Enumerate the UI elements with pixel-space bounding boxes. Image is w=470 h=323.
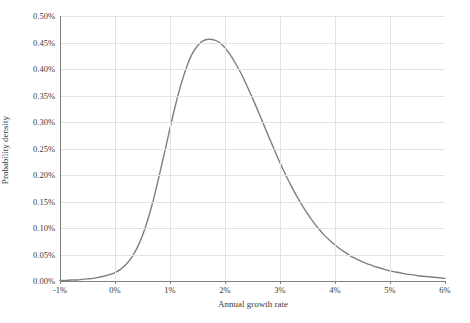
x-axis-tick-mark [115,281,116,284]
x-axis-tick-label: -1% [53,285,67,295]
x-axis-line [60,281,446,282]
y-axis-tick-label: 0.40% [33,64,55,74]
density-curve-path [60,39,445,280]
gridline-horizontal [60,255,445,256]
gridline-vertical [170,16,171,281]
x-axis-title: Annual growth rate [60,299,446,309]
gridline-horizontal [60,202,445,203]
x-axis-tick-mark [445,281,446,284]
gridline-vertical [115,16,116,281]
x-axis-tick-label: 4% [329,285,340,295]
gridline-horizontal [60,122,445,123]
gridline-vertical [225,16,226,281]
y-axis-tick-label: 0.05% [33,250,55,260]
y-axis-tick-label: 0.30% [33,117,55,127]
y-axis-tick-label: 0.50% [33,11,55,21]
x-axis-tick-mark [225,281,226,284]
y-axis-tick-label: 0.20% [33,170,55,180]
gridline-horizontal [60,43,445,44]
y-axis-title: Probability density [0,95,10,205]
gridline-horizontal [60,175,445,176]
x-axis-tick-mark [60,281,61,284]
y-axis-tick-label: 0.45% [33,38,55,48]
y-axis-tick-label: 0.25% [33,144,55,154]
gridline-horizontal [60,96,445,97]
gridline-horizontal [60,228,445,229]
gridline-horizontal [60,149,445,150]
x-axis-tick-label: 6% [439,285,450,295]
y-axis-tick-label: 0.10% [33,223,55,233]
x-axis-tick-mark [390,281,391,284]
x-axis-tick-label: 1% [164,285,175,295]
x-axis-tick-mark [280,281,281,284]
x-axis-tick-label: 0% [109,285,120,295]
gridline-vertical [390,16,391,281]
plot-area [60,16,445,281]
y-axis-tick-label: 0.00% [33,276,55,286]
x-axis-tick-label: 2% [219,285,230,295]
x-axis-tick-mark [335,281,336,284]
x-axis-tick-mark [170,281,171,284]
y-axis-tick-label: 0.35% [33,91,55,101]
chart-figure: 0.00%0.05%0.10%0.15%0.20%0.25%0.30%0.35%… [0,0,470,323]
gridline-horizontal [60,69,445,70]
y-axis-tick-label: 0.15% [33,197,55,207]
y-axis-line [60,16,61,282]
gridline-horizontal [60,16,445,17]
gridline-vertical [280,16,281,281]
x-axis-tick-label: 5% [384,285,395,295]
gridline-vertical [335,16,336,281]
x-axis-tick-label: 3% [274,285,285,295]
